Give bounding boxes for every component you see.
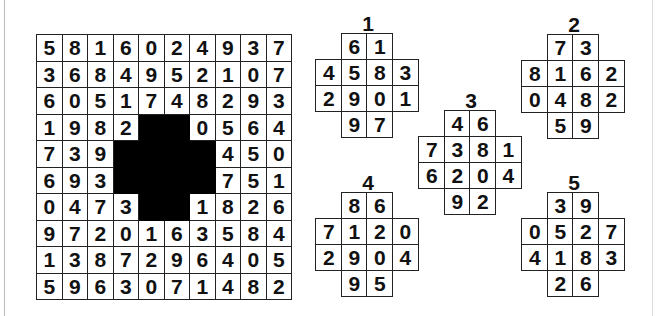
grid-cell: 9 [62, 114, 88, 141]
grid-row: 739450 [37, 141, 292, 168]
grid-cell: 6 [37, 167, 63, 194]
piece-cell: 9 [572, 112, 599, 139]
piece-cell: 2 [598, 60, 625, 87]
piece-cell: 6 [469, 110, 496, 137]
grid-cell: 4 [62, 194, 88, 221]
grid-cell: 1 [37, 247, 63, 274]
grid-cell: 0 [139, 273, 165, 300]
piece-cell: 9 [341, 85, 368, 112]
grid-cell: 8 [88, 247, 114, 274]
black-cell [190, 141, 216, 168]
black-cell [164, 141, 190, 168]
piece-cell: 5 [547, 112, 574, 139]
grid-row: 5963071482 [37, 273, 292, 300]
piece-row: 97 [316, 112, 420, 138]
piece-cell: 5 [366, 270, 393, 297]
piece-row: 86 [316, 193, 420, 219]
piece-row: 92 [419, 189, 523, 215]
grid-cell: 9 [164, 247, 190, 274]
piece-row: 95 [316, 271, 420, 297]
piece-row: 61 [316, 34, 420, 60]
grid-row: 6051748293 [37, 88, 292, 115]
piece-row: 39 [522, 193, 626, 219]
grid-cell: 3 [113, 194, 139, 221]
piece-cell: 3 [444, 136, 471, 163]
piece-row: 8162 [522, 61, 626, 87]
grid-cell: 5 [266, 247, 292, 274]
grid-cell: 1 [37, 114, 63, 141]
piece-cell: 1 [495, 136, 522, 163]
piece-cell: 3 [547, 192, 574, 219]
grid-cell: 3 [37, 61, 63, 88]
piece-cell: 0 [521, 218, 548, 245]
grid-cell: 1 [266, 167, 292, 194]
piece-cell: 0 [469, 162, 496, 189]
grid-cell: 3 [190, 220, 216, 247]
grid-cell: 0 [113, 220, 139, 247]
grid-cell: 8 [241, 220, 267, 247]
piece-cell: 3 [392, 59, 419, 86]
piece-cell: 4 [495, 162, 522, 189]
piece-2[interactable]: 2738162048259 [522, 35, 626, 139]
piece-cell: 4 [315, 59, 342, 86]
piece-1[interactable]: 1614583290197 [316, 34, 420, 138]
grid-cell: 0 [241, 247, 267, 274]
piece-cell: 1 [392, 85, 419, 112]
piece-label: 5 [522, 171, 626, 195]
grid-cell: 1 [113, 88, 139, 115]
grid-cell: 1 [139, 220, 165, 247]
piece-spacer [598, 192, 625, 219]
piece-row: 73 [522, 35, 626, 61]
grid-cell: 5 [215, 220, 241, 247]
piece-row: 4183 [522, 245, 626, 271]
piece-3[interactable]: 3467381620492 [419, 111, 523, 215]
black-cell [139, 194, 165, 221]
frame-left-border [4, 0, 5, 316]
piece-cell: 4 [444, 110, 471, 137]
grid-cell: 6 [190, 247, 216, 274]
black-cell [113, 167, 139, 194]
piece-cell: 8 [469, 136, 496, 163]
piece-row: 46 [419, 111, 523, 137]
black-cell [139, 167, 165, 194]
black-cell [164, 194, 190, 221]
grid-cell: 9 [37, 220, 63, 247]
black-cell [139, 141, 165, 168]
piece-cell: 7 [598, 218, 625, 245]
grid-cell: 4 [164, 88, 190, 115]
grid-cell: 5 [37, 35, 63, 62]
piece-4[interactable]: 4867120290495 [316, 193, 420, 297]
grid-cell: 6 [164, 220, 190, 247]
piece-cell: 8 [521, 60, 548, 87]
grid-cell: 7 [164, 273, 190, 300]
piece-cell: 9 [572, 192, 599, 219]
piece-cell: 4 [547, 86, 574, 113]
piece-cell: 6 [572, 60, 599, 87]
piece-row: 0482 [522, 87, 626, 113]
grid-cell: 3 [266, 88, 292, 115]
piece-5[interactable]: 5390527418326 [522, 193, 626, 297]
piece-spacer [495, 188, 522, 215]
black-cell [164, 167, 190, 194]
grid-cell: 4 [266, 220, 292, 247]
piece-cell: 6 [572, 270, 599, 297]
grid-cell: 7 [266, 61, 292, 88]
grid-cell: 2 [139, 247, 165, 274]
grid-cell: 7 [37, 141, 63, 168]
grid-cell: 8 [88, 61, 114, 88]
piece-cell: 2 [547, 270, 574, 297]
piece-spacer [598, 270, 625, 297]
grid-cell: 3 [88, 167, 114, 194]
piece-cell: 5 [341, 59, 368, 86]
grid-cell: 9 [241, 88, 267, 115]
piece-row: 7120 [316, 219, 420, 245]
piece-spacer [315, 192, 342, 219]
piece-spacer [418, 188, 445, 215]
grid-cell: 7 [139, 88, 165, 115]
piece-cell: 3 [598, 244, 625, 271]
piece-label: 2 [522, 13, 626, 37]
piece-cell: 1 [366, 33, 393, 60]
piece-cell: 7 [547, 34, 574, 61]
piece-spacer [315, 111, 342, 138]
piece-cell: 5 [547, 218, 574, 245]
